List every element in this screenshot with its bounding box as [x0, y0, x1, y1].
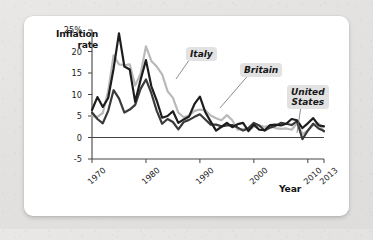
- y-tick-label: 20: [56, 47, 82, 57]
- y-tick-label: 0: [56, 133, 82, 143]
- chart-card: Inflation rate Year 25%20151050-5 197019…: [24, 16, 349, 216]
- y-tick-label: -5: [56, 154, 82, 164]
- leader-line-britain: [220, 72, 251, 108]
- series-callout-united-states: United States: [287, 85, 329, 109]
- y-tick-label: 15: [56, 68, 82, 78]
- x-tick-marks: [92, 159, 324, 163]
- y-tick-label: 5: [56, 111, 82, 121]
- y-tick-label: 25%: [56, 25, 82, 35]
- y-tick-label: 10: [56, 90, 82, 100]
- x-axis-title: Year: [279, 184, 301, 195]
- series-callout-britain: Britain: [240, 63, 282, 77]
- series-callout-italy: Italy: [186, 47, 217, 61]
- callout-leader-lines: [176, 56, 301, 133]
